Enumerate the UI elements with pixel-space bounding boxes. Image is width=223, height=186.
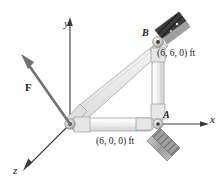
coordinate-axes xyxy=(23,17,209,171)
joint-b xyxy=(153,37,164,48)
axis-z xyxy=(23,124,70,171)
statics-figure: y x z B A (6, 6, 0) ft (6, 0, 0) ft F xyxy=(0,0,223,186)
axis-label-z: z xyxy=(13,165,17,176)
coordinate-label-b: (6, 6, 0) ft xyxy=(157,49,195,59)
joint-a xyxy=(153,119,163,129)
axis-y xyxy=(67,17,73,124)
force-label-f: F xyxy=(25,82,32,93)
coordinate-label-a: (6, 0, 0) ft xyxy=(96,137,134,147)
member-origin-to-a xyxy=(67,117,158,132)
axis-label-y: y xyxy=(64,18,69,29)
point-label-b: B xyxy=(142,28,149,38)
support-bracket-a xyxy=(147,128,180,161)
axis-label-x: x xyxy=(210,114,215,125)
point-label-a: A xyxy=(163,110,170,120)
figure-canvas xyxy=(0,0,223,186)
